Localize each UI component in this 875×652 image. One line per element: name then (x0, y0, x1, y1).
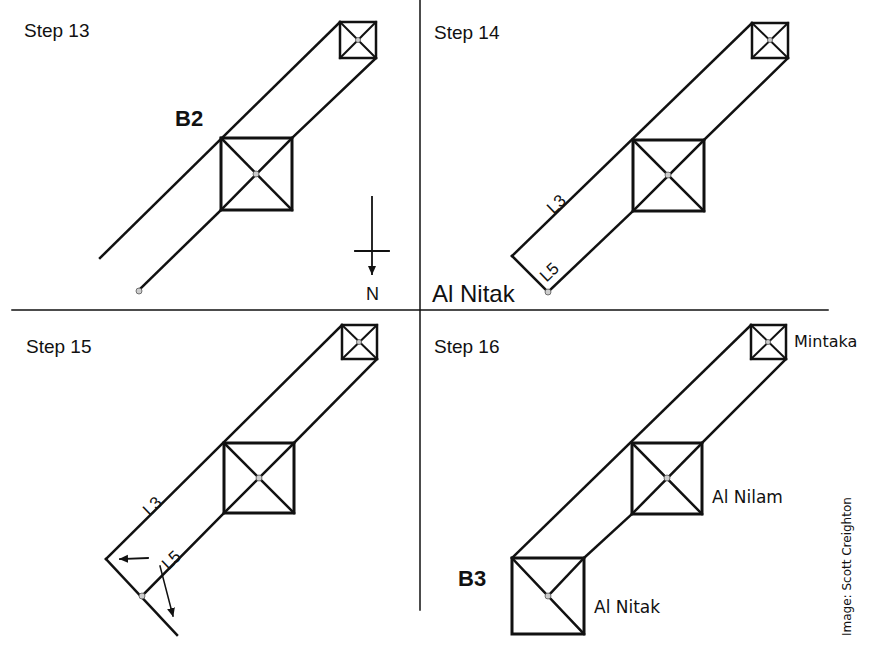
endpoint-dot (139, 593, 145, 599)
b3-label: B3 (458, 566, 486, 592)
endpoint-dot (545, 289, 551, 295)
endpoint-dot (136, 288, 142, 294)
step13-figure (100, 22, 389, 289)
step15-title: Step 15 (26, 336, 92, 358)
al-nilam-label: Al Nilam (712, 487, 783, 507)
step16-figure (512, 325, 786, 634)
compass-north-label: N (366, 284, 379, 305)
diagram-canvas (0, 0, 875, 652)
al-nitak-label: Al Nitak (594, 597, 660, 617)
mintaka-label: Mintaka (794, 332, 857, 351)
step16-title: Step 16 (434, 336, 500, 358)
step14-figure (512, 23, 788, 292)
pyramid-center-dot (357, 340, 362, 345)
pyramid-center-dot (253, 171, 259, 177)
pyramid-center-dot (766, 340, 771, 345)
pyramid-center-dot (356, 38, 361, 43)
pyramid-center-dot (768, 38, 773, 43)
pyramid-center-dot (664, 475, 670, 481)
b2-label: B2 (175, 106, 203, 132)
al-nitak-label: Al Nitak (432, 280, 515, 308)
step13-title: Step 13 (24, 20, 90, 42)
arrow-left-icon (120, 558, 148, 559)
pyramid-center-dot (545, 593, 551, 599)
pyramid-center-dot (665, 172, 671, 178)
pyramid-center-dot (256, 475, 262, 481)
step15-figure (106, 325, 377, 635)
image-credit: Image: Scott Creighton (840, 497, 854, 636)
step14-title: Step 14 (434, 22, 500, 44)
